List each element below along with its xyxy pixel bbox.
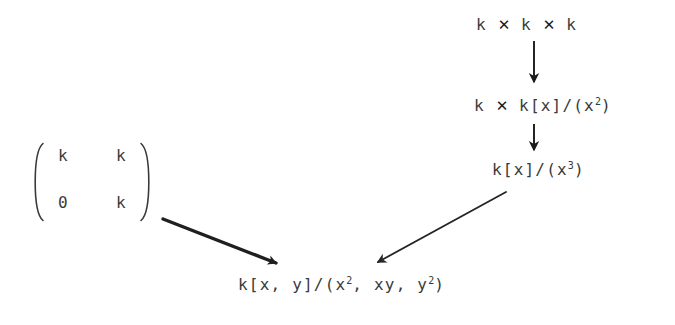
matrix-bracket-left	[32, 142, 46, 222]
node-k-times-k-times-k: k ✕ k ✕ k	[476, 17, 577, 33]
node-kx-mod-x3: k[x]/(x3)	[492, 162, 585, 178]
node-kxy-ring: k[x, y]/(x	[238, 275, 346, 294]
node-kkk-k1: k	[476, 15, 487, 34]
arrow-matrix-to-kxy	[163, 219, 276, 263]
node-kxy-mod-ideal: k[x, y]/(x2, xy, y2)	[238, 277, 445, 293]
node-k-times-kx-mod-x2: k ✕ k[x]/(x2)	[474, 98, 612, 114]
node-upper-triangular-matrix: k k 0 k	[32, 142, 157, 222]
matrix-cell-r2c2: k	[116, 195, 127, 211]
multiplication-icon: ✕	[543, 16, 556, 34]
node-kx3-close: )	[574, 160, 585, 179]
matrix-cell-r1c2: k	[116, 148, 127, 164]
node-kx2-lead: k	[474, 96, 485, 115]
matrix-cell-r1c1: k	[58, 148, 69, 164]
node-kxy-close: )	[434, 275, 445, 294]
multiplication-icon: ✕	[498, 16, 511, 34]
arrow-kx3-to-kxy	[378, 192, 506, 262]
node-kx3-ring: k[x]/(x	[492, 160, 568, 179]
node-kx2-ring: k[x]/(x	[519, 96, 595, 115]
node-kkk-k3: k	[566, 15, 577, 34]
node-kxy-mid: , xy, y	[352, 275, 428, 294]
multiplication-icon: ✕	[496, 97, 509, 115]
matrix-bracket-right	[138, 142, 152, 222]
matrix-cell-r2c1: 0	[58, 195, 69, 211]
node-kx2-close: )	[601, 96, 612, 115]
diagram-canvas: k ✕ k ✕ k k ✕ k[x]/(x2) k[x]/(x3) k[x, y…	[0, 0, 675, 325]
node-kkk-k2: k	[521, 15, 532, 34]
